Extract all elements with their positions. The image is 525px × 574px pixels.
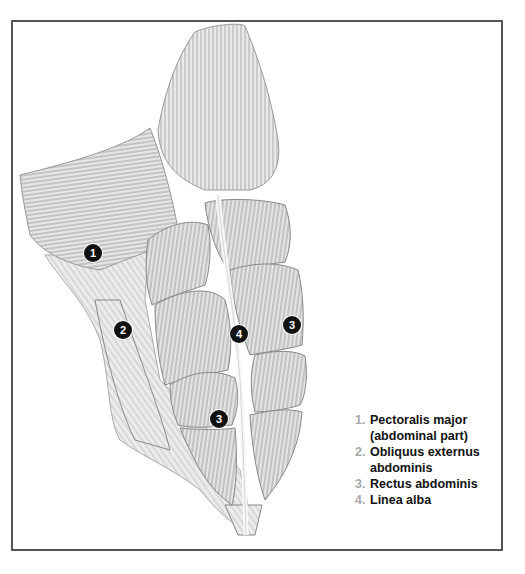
legend-number: 4. <box>355 492 370 508</box>
marker-4: 4 <box>230 325 248 343</box>
legend-label: Obliquus externus abdominis <box>370 444 480 476</box>
legend-number: 3. <box>355 476 370 492</box>
legend-label: Linea alba <box>370 492 431 508</box>
legend-item-1: 1. Pectoralis major (abdominal part) <box>355 412 480 444</box>
legend-item-3: 3. Rectus abdominis <box>355 476 480 492</box>
legend-label: Rectus abdominis <box>370 476 478 492</box>
marker-3-upper: 3 <box>283 316 301 334</box>
legend-number: 1. <box>355 412 370 444</box>
legend-label: Pectoralis major (abdominal part) <box>370 412 468 444</box>
legend-item-2: 2. Obliquus externus abdominis <box>355 444 480 476</box>
marker-2: 2 <box>114 321 132 339</box>
upper-muscle-shape <box>158 24 279 190</box>
marker-3-lower: 3 <box>210 410 228 428</box>
legend-item-4: 4. Linea alba <box>355 492 480 508</box>
legend: 1. Pectoralis major (abdominal part) 2. … <box>355 412 480 508</box>
legend-number: 2. <box>355 444 370 476</box>
marker-1: 1 <box>84 244 102 262</box>
